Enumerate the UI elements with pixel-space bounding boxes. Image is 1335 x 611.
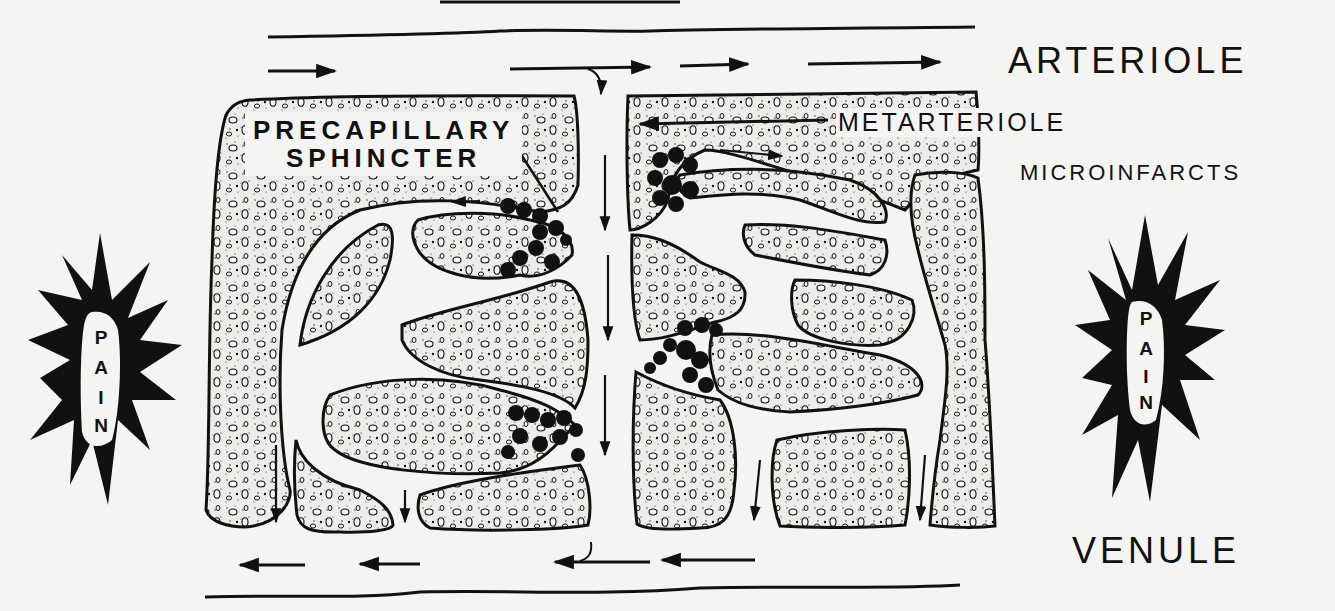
pain-left-letter: I bbox=[91, 387, 111, 409]
pain-right-letter: P bbox=[1136, 308, 1156, 330]
arteriole-label: ARTERIOLE bbox=[1008, 40, 1247, 82]
arteriole-flow-arrow bbox=[510, 67, 650, 69]
pain-left-letter: P bbox=[91, 327, 111, 349]
capillary-arrow bbox=[754, 460, 760, 520]
capillary-arrow bbox=[920, 455, 925, 520]
arteriole-branch-arrow bbox=[588, 69, 601, 94]
pain-left-letter: A bbox=[91, 357, 111, 379]
venule-label: VENULE bbox=[1072, 530, 1240, 572]
arteriole-flow-arrow bbox=[680, 64, 748, 66]
venule-join-curve bbox=[580, 542, 591, 561]
precapillary-label-line1: PRECAPILLARY bbox=[253, 116, 514, 144]
venule-vessel bbox=[205, 542, 960, 597]
diagram-canvas bbox=[0, 0, 1335, 611]
precapillary-label-line2: SPHINCTER bbox=[253, 144, 514, 172]
pain-right-letter: N bbox=[1136, 392, 1156, 414]
arteriole-flow-arrow bbox=[808, 62, 940, 64]
capillary-arrow bbox=[452, 201, 480, 202]
arteriole-vessel bbox=[268, 2, 975, 94]
metarteriole-label: METARTERIOLE bbox=[836, 108, 1068, 137]
precapillary-sphincter-label: PRECAPILLARY SPHINCTER bbox=[245, 112, 522, 176]
pain-right-letter: I bbox=[1136, 366, 1156, 388]
pain-left-letter: N bbox=[91, 415, 111, 437]
microcirculation-diagram: ARTERIOLE VENULE METARTERIOLE MICROINFAR… bbox=[0, 0, 1335, 611]
pain-right-letter: A bbox=[1136, 338, 1156, 360]
microinfarcts-label: MICROINFARCTS bbox=[1020, 160, 1241, 186]
